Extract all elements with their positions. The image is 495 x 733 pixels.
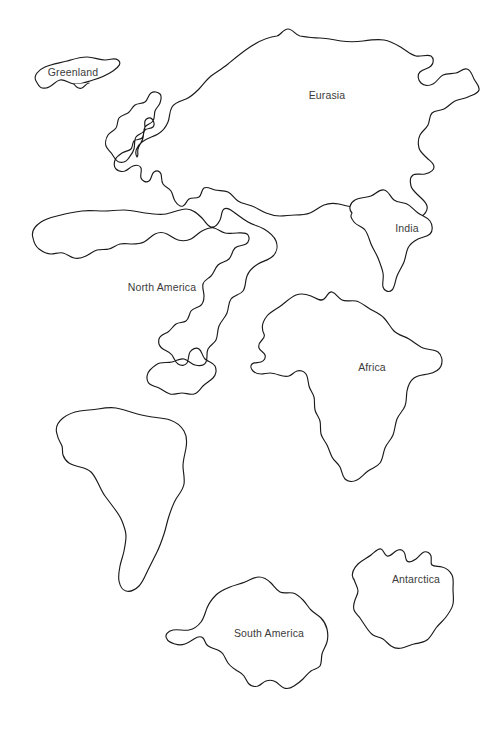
- label-north-america: North America: [128, 281, 196, 293]
- label-india: India: [395, 222, 419, 234]
- label-africa: Africa: [358, 361, 386, 373]
- label-australia: Antarctica: [392, 573, 440, 585]
- landmass-south-america[interactable]: [56, 408, 186, 592]
- landmass-eurasia[interactable]: Eurasia: [106, 29, 480, 220]
- south-america-outline[interactable]: [56, 408, 186, 592]
- north-america-outline[interactable]: [32, 208, 277, 394]
- label-greenland: Greenland: [48, 66, 98, 78]
- landmass-north-america[interactable]: North America: [32, 208, 277, 394]
- world-map-canvas: Greenland Eurasia India North America Af…: [0, 0, 495, 733]
- eurasia-outline[interactable]: [106, 29, 480, 220]
- label-eurasia: Eurasia: [309, 89, 346, 101]
- landmass-antarctica[interactable]: South America: [166, 577, 328, 688]
- africa-outline[interactable]: [251, 292, 442, 482]
- label-antarctica: South America: [234, 627, 304, 639]
- world-map-svg: Greenland Eurasia India North America Af…: [0, 0, 495, 733]
- landmass-africa[interactable]: Africa: [251, 292, 442, 482]
- landmass-australia[interactable]: Antarctica: [352, 549, 453, 649]
- australia-outline[interactable]: [352, 549, 453, 649]
- landmass-greenland[interactable]: Greenland: [35, 57, 120, 88]
